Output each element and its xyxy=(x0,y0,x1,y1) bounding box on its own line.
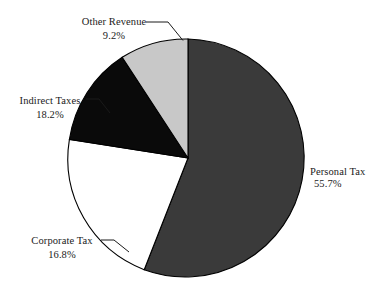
pie-label-corporate-tax-value: 16.8% xyxy=(12,249,112,261)
pie-label-indirect-taxes-value: 18.2% xyxy=(2,109,98,121)
pie-label-personal-tax-value: 55.7% xyxy=(310,178,377,190)
pie-label-other-revenue-value: 9.2% xyxy=(66,30,162,42)
pie-label-indirect-taxes-name: Indirect Taxes xyxy=(20,95,81,106)
pie-label-other-revenue-name: Other Revenue xyxy=(82,16,147,27)
pie-label-corporate-tax: Corporate Tax 16.8% xyxy=(12,230,112,261)
pie-label-corporate-tax-name: Corporate Tax xyxy=(31,235,92,246)
pie-label-other-revenue: Other Revenue 9.2% xyxy=(66,11,162,42)
pie-label-indirect-taxes: Indirect Taxes 18.2% xyxy=(2,90,98,121)
pie-label-personal-tax-name: Personal Tax xyxy=(310,166,377,178)
pie-chart: Other Revenue 9.2% Indirect Taxes 18.2% … xyxy=(0,0,377,290)
pie-label-personal-tax: Personal Tax 55.7% xyxy=(310,166,377,191)
